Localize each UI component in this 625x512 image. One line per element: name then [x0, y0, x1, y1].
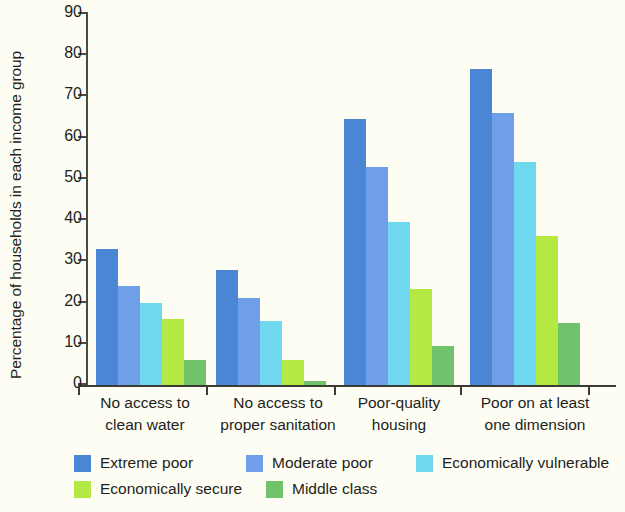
x-category-label-line: housing [340, 414, 458, 436]
y-tick-label: 70 [64, 85, 82, 103]
legend-swatch-icon [416, 455, 433, 472]
legend-item-economically-vulnerable[interactable]: Economically vulnerable [416, 454, 609, 472]
bar [536, 236, 558, 385]
x-category-label-line: No access to [214, 392, 342, 414]
legend-swatch-icon [74, 455, 91, 472]
x-category-label-line: clean water [86, 414, 204, 436]
x-category-label-line: one dimension [470, 414, 600, 436]
y-tick-label: 40 [64, 209, 82, 227]
x-category-label-line: proper sanitation [214, 414, 342, 436]
bar [366, 167, 388, 385]
legend-swatch-icon [74, 481, 91, 498]
x-category-label-1: No access toclean water [86, 392, 204, 436]
x-category-label-3: Poor-qualityhousing [340, 392, 458, 436]
bar [344, 119, 366, 385]
bar [304, 381, 326, 385]
y-tick-label: 20 [64, 292, 82, 310]
legend-label: Extreme poor [100, 454, 193, 472]
bar [238, 298, 260, 385]
legend-swatch-icon [246, 455, 263, 472]
y-axis-line [86, 12, 88, 387]
x-category-label-line: Poor-quality [340, 392, 458, 414]
bar [282, 360, 304, 385]
bar [410, 289, 432, 385]
chart-figure: Percentage of households in each income … [0, 0, 625, 512]
bar [492, 113, 514, 385]
y-axis-title: Percentage of households in each income … [0, 0, 32, 430]
x-category-label-2: No access toproper sanitation [214, 392, 342, 436]
bar-group-3 [344, 14, 454, 385]
legend-label: Moderate poor [272, 454, 373, 472]
legend-swatch-icon [266, 481, 283, 498]
y-tick-label: 30 [64, 250, 82, 268]
y-tick-label: 90 [64, 3, 82, 21]
y-tick-label: 10 [64, 333, 82, 351]
bar-group-4 [470, 14, 580, 385]
legend-item-middle-class[interactable]: Middle class [266, 480, 377, 498]
x-category-label-4: Poor on at leastone dimension [470, 392, 600, 436]
y-tick-label: 60 [64, 127, 82, 145]
bar-group-1 [96, 14, 206, 385]
plot-area: 0102030405060708090 [88, 14, 616, 385]
legend-label: Economically vulnerable [442, 454, 609, 472]
bar [470, 69, 492, 385]
bar [514, 162, 536, 385]
bar [184, 360, 206, 385]
x-category-label-line: Poor on at least [470, 392, 600, 414]
bar [432, 346, 454, 385]
x-axis-category-labels: No access toclean waterNo access toprope… [78, 392, 618, 444]
bar [388, 222, 410, 385]
bar [558, 323, 580, 385]
bar [216, 270, 238, 385]
legend-item-extreme-poor[interactable]: Extreme poor [74, 454, 193, 472]
bar-group-2 [216, 14, 326, 385]
y-tick-label: 50 [64, 168, 82, 186]
legend-item-economically-secure[interactable]: Economically secure [74, 480, 242, 498]
bar [140, 303, 162, 385]
bar [118, 286, 140, 385]
bar [162, 319, 184, 385]
bar [96, 249, 118, 385]
legend-label: Middle class [292, 480, 377, 498]
legend-item-moderate-poor[interactable]: Moderate poor [246, 454, 373, 472]
x-axis-line [78, 385, 616, 387]
legend-label: Economically secure [100, 480, 242, 498]
y-axis-title-text: Percentage of households in each income … [7, 51, 25, 379]
bar [260, 321, 282, 385]
x-category-label-line: No access to [86, 392, 204, 414]
y-tick-label: 80 [64, 44, 82, 62]
chart-legend: Extreme poorModerate poorEconomically vu… [66, 452, 622, 506]
